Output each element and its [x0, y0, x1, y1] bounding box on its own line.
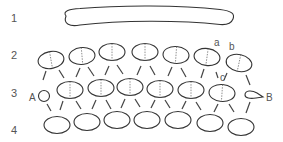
arrow-r2-r3-14: [246, 75, 250, 85]
row3-stitch-4: [147, 81, 173, 98]
row2-stitch-2: [68, 46, 95, 65]
label-B: B: [266, 92, 273, 103]
ellipse-outline: [197, 115, 223, 132]
arrow-r3-r4-14: [246, 102, 250, 113]
arrow-r2-r3-10: [181, 68, 186, 77]
label-a: a: [214, 37, 220, 48]
row-label-3: 3: [11, 87, 17, 99]
arrow-r2-r3-7: [137, 66, 141, 75]
arrow-r3-r4-6: [121, 99, 125, 108]
marker-B-teardrop: [245, 91, 263, 98]
label-c: c: [220, 72, 225, 83]
ellipse-outline: [134, 112, 160, 129]
arrow-r2-r3-2: [59, 70, 64, 78]
arrow-r2-r3-5: [105, 66, 109, 75]
arrow-r3-r4-4: [92, 100, 96, 109]
label-b: b: [229, 41, 235, 52]
arrow-r3-r4-5: [106, 100, 111, 109]
row2-stitch-7: [225, 52, 254, 74]
arrow-r2-r3-6: [117, 65, 123, 74]
arrow-r2-r3-4: [88, 67, 94, 76]
dashed-divider: [175, 47, 176, 64]
arrow-r2-r3-8: [150, 66, 155, 75]
row4-stitch-1: [44, 117, 70, 134]
arrow-r3-r4-3: [76, 101, 81, 109]
marker-A-circle: [39, 91, 50, 102]
row4-stitch-2: [74, 114, 100, 131]
arrow-r3-r4-9: [165, 100, 170, 108]
ellipse-outline: [74, 114, 100, 131]
row1-bar: [65, 6, 234, 26]
ellipse-outline: [104, 112, 130, 129]
row3-stitch-2: [88, 80, 114, 97]
label-A: A: [29, 92, 36, 103]
row3-stitch-3: [117, 79, 143, 96]
ellipse-outline: [165, 112, 191, 129]
ellipse-outline: [228, 119, 254, 136]
row4-stitch-5: [165, 112, 191, 129]
arrow-r3-r4-8: [151, 100, 155, 108]
row4-stitch-3: [104, 112, 130, 129]
arrow-r3-r4-10: [182, 101, 186, 109]
arrow-r3-r4-11: [196, 102, 201, 110]
dashed-divider: [81, 48, 82, 65]
arrow-r3-r4-2: [60, 101, 63, 110]
row2-stitch-5: [162, 46, 189, 65]
crochet-diagram: 1 2 3 4 a b c A B: [0, 0, 283, 142]
arrow-r3-r4-1: [47, 104, 51, 111]
dashed-divider: [206, 49, 208, 66]
row2-stitch-3: [99, 44, 125, 61]
arrow-r2-r3-11: [201, 69, 204, 78]
arrow-r2-r3-3: [76, 68, 80, 77]
arrow-r3-r4-12: [214, 104, 218, 112]
row4-stitch-6: [197, 115, 223, 132]
row2-stitch-4: [132, 44, 158, 61]
arrow-r2-r3-12: [216, 72, 218, 78]
row-label-1: 1: [11, 12, 17, 24]
row3-stitch-6: [208, 84, 235, 103]
row4-stitch-7: [228, 119, 254, 136]
row2-stitch-6: [193, 47, 221, 67]
row3-stitch-1: [57, 82, 83, 99]
arrow-r2-r3-1: [43, 71, 46, 80]
row4-stitch-4: [134, 112, 160, 129]
dashed-divider: [221, 85, 222, 102]
row-label-2: 2: [11, 49, 17, 61]
row-label-4: 4: [11, 124, 17, 136]
row3-stitch-5: [178, 82, 204, 99]
arrow-r2-r3-9: [168, 67, 172, 76]
dashed-divider: [237, 55, 241, 72]
arrow-r3-r4-13: [229, 104, 234, 112]
dashed-divider: [50, 52, 53, 69]
row2-stitch-1: [37, 49, 66, 70]
arrow-r3-r4-7: [135, 99, 140, 107]
ellipse-outline: [44, 117, 70, 134]
